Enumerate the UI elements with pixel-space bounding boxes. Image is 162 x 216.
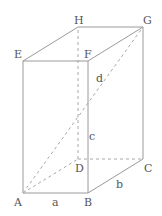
- vertex-label-G: G: [143, 14, 152, 27]
- cuboid-diagram: A B C D E F G H a b c d: [0, 0, 162, 216]
- vertex-label-E: E: [14, 48, 22, 61]
- edge-FG: [88, 27, 143, 61]
- edge-AD: [23, 159, 78, 193]
- vertex-label-F: F: [84, 48, 92, 61]
- vertex-label-B: B: [84, 196, 92, 209]
- vertex-labels: A B C D E F G H: [13, 14, 152, 209]
- vertex-label-H: H: [74, 14, 84, 27]
- edge-EH: [23, 27, 78, 61]
- edge-label-a: a: [52, 196, 59, 209]
- edge-label-d: d: [96, 72, 103, 85]
- vertex-label-A: A: [13, 196, 23, 209]
- vertex-label-D: D: [75, 162, 84, 175]
- edge-label-b: b: [116, 178, 123, 191]
- edge-label-c: c: [89, 130, 95, 143]
- vertex-label-C: C: [144, 162, 152, 175]
